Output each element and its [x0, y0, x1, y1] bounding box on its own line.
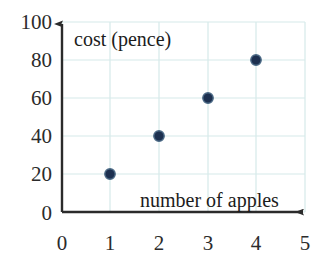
data-point-3-60: [203, 93, 213, 103]
x-tick-label-3: 3: [203, 233, 214, 254]
y-tick-label-100: 100: [0, 12, 52, 33]
y-tick-label-60: 60: [0, 88, 52, 109]
y-tick-label-0: 0: [0, 203, 52, 224]
scatter-chart: 100 80 60 40 20 0 0 1 2 3 4 5 cost (penc…: [0, 0, 327, 270]
y-tick-label-80: 80: [0, 50, 52, 71]
data-point-4-80: [251, 55, 261, 65]
y-tick-label-20: 20: [0, 164, 52, 185]
vertical-gridlines: [62, 22, 305, 212]
x-tick-label-5: 5: [300, 233, 311, 254]
x-tick-label-1: 1: [105, 233, 116, 254]
data-point-1-20: [105, 169, 115, 179]
y-axis-title: cost (pence): [74, 29, 171, 49]
horizontal-gridlines: [62, 22, 305, 212]
x-tick-label-2: 2: [154, 233, 165, 254]
data-point-2-40: [154, 131, 164, 141]
data-points: [105, 55, 261, 179]
x-tick-label-4: 4: [251, 233, 262, 254]
y-tick-label-40: 40: [0, 126, 52, 147]
x-tick-label-0: 0: [57, 233, 68, 254]
x-axis-title: number of apples: [140, 190, 279, 210]
